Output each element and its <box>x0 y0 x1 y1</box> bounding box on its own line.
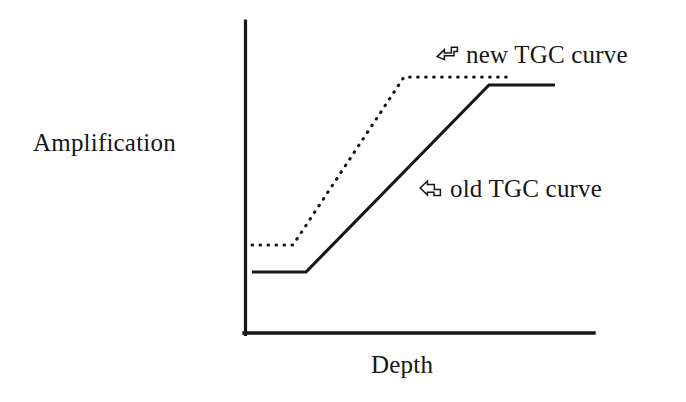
bent-arrow-pointer-icon <box>435 42 461 68</box>
new-tgc-curve-annotation-label: new TGC curve <box>466 42 628 67</box>
old-tgc-curve-annotation-label: old TGC curve <box>450 176 602 201</box>
y-axis-title: Amplification <box>33 130 176 155</box>
bent-arrow-pointer-icon <box>418 176 444 202</box>
tgc-curve-figure: Amplification Depth new TGC curve old TG… <box>0 0 686 402</box>
x-axis-title: Depth <box>371 352 433 377</box>
